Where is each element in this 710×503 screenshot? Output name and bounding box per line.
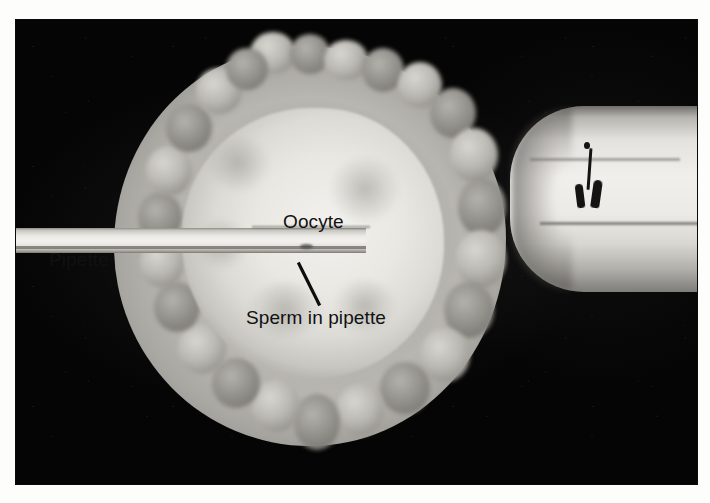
- cumulus-lobe: [294, 394, 340, 450]
- cumulus-lobe: [226, 48, 268, 90]
- cumulus-lobe: [450, 128, 498, 182]
- cytoplasm-granule: [208, 136, 268, 190]
- holding-pipette-tip-shading: [512, 108, 572, 290]
- label-pipette: Pipette: [49, 250, 109, 269]
- holding-pipette-upper-wall: [530, 158, 680, 161]
- label-sperm-in-pipette: Sperm in pipette: [246, 308, 386, 327]
- cumulus-lobe: [420, 328, 470, 382]
- sperm-cell: [300, 244, 313, 249]
- holding-pipette-suction-tip: [584, 142, 590, 149]
- cumulus-lobe: [458, 178, 506, 236]
- label-oocyte: Oocyte: [283, 212, 344, 231]
- micrograph-plate: Oocyte Sperm in pipette Pipette: [16, 20, 697, 484]
- holding-pipette-lower-wall: [540, 222, 697, 225]
- icsi-figure: Oocyte Sperm in pipette Pipette: [0, 0, 710, 503]
- cumulus-lobe: [456, 230, 506, 288]
- cumulus-lobe: [336, 384, 384, 436]
